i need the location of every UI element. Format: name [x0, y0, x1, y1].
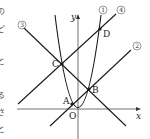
point-b-dot — [87, 87, 90, 90]
curve-label-2: 2 — [133, 42, 141, 50]
edge-fragment: ） — [0, 72, 5, 81]
point-a-label: A — [62, 96, 70, 106]
edge-fragment: る — [0, 91, 5, 100]
point-a-dot — [70, 102, 73, 105]
coordinate-diagram: の ど ） と ） る さ と 1 4 3 2 D — [0, 0, 150, 139]
origin-label: O — [69, 111, 76, 121]
point-c-label: C — [52, 59, 59, 69]
x-axis-label: x — [136, 111, 141, 121]
edge-fragment: さ — [0, 108, 5, 117]
edge-fragment: と — [0, 57, 5, 66]
point-b-label: B — [92, 85, 99, 95]
svg-text:3: 3 — [20, 21, 24, 28]
edge-fragment: ） — [0, 40, 5, 49]
curve-label-4: 4 — [117, 6, 125, 14]
y-axis-arrow-icon — [76, 14, 80, 19]
svg-text:1: 1 — [101, 6, 105, 13]
point-d-label: D — [103, 29, 110, 39]
point-d-dot — [98, 27, 101, 30]
edge-fragment: と — [0, 125, 5, 134]
axes — [17, 14, 141, 139]
curve-label-1: 1 — [99, 6, 107, 14]
line-4 — [18, 14, 116, 104]
point-c-dot — [60, 62, 63, 65]
left-edge-text-fragments: の ど ） と ） る さ と — [0, 7, 5, 134]
edge-fragment: ど — [0, 25, 5, 34]
svg-text:2: 2 — [135, 42, 139, 49]
edge-fragment: の — [0, 7, 5, 16]
curve-label-3: 3 — [18, 21, 26, 29]
svg-text:4: 4 — [119, 6, 123, 13]
y-axis-label: y — [70, 12, 77, 22]
